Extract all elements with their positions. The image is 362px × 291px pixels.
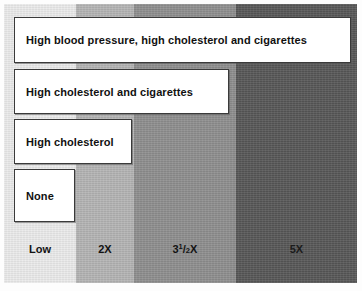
risk-box-label: High cholesterol and cigarettes	[15, 86, 193, 98]
plot-area: High blood pressure, high cholesterol an…	[4, 4, 357, 283]
risk-box-none: None	[14, 169, 75, 222]
risk-box-label: None	[15, 190, 54, 202]
axis-label-low: Low	[4, 240, 76, 258]
axis-label-text: 2X	[98, 243, 111, 255]
axis-label-2x: 2X	[76, 240, 134, 258]
risk-gradient-figure: High blood pressure, high cholesterol an…	[0, 0, 362, 291]
risk-box-label: High cholesterol	[15, 136, 114, 148]
axis-label-5x: 5X	[236, 240, 357, 258]
fraction-group: 31/2X	[172, 240, 197, 258]
risk-box-chol: High cholesterol	[14, 119, 132, 164]
axis-label-3half-x: 31/2X	[134, 240, 236, 258]
risk-box-label: High blood pressure, high cholesterol an…	[15, 34, 307, 46]
axis-label-text: Low	[29, 243, 51, 255]
axis-label-text: 5X	[290, 243, 303, 255]
risk-box-all-three: High blood pressure, high cholesterol an…	[14, 17, 351, 63]
risk-box-chol-cigs: High cholesterol and cigarettes	[14, 69, 229, 114]
axis-label-suffix: X	[190, 243, 197, 255]
